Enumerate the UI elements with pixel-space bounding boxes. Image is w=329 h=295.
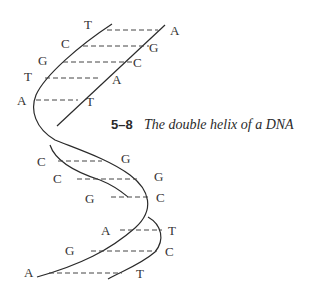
base-label: G xyxy=(149,40,158,55)
base-label: T xyxy=(84,17,92,32)
base-label: C xyxy=(133,55,142,70)
base-label: T xyxy=(136,266,144,281)
base-label: G xyxy=(38,53,47,68)
base-label: A xyxy=(17,93,27,108)
base-label: G xyxy=(121,151,130,166)
base-label: A xyxy=(170,23,180,38)
base-label: C xyxy=(165,244,174,259)
base-label: T xyxy=(86,94,94,109)
figure-caption: 5–8 The double helix of a DNA xyxy=(111,117,294,133)
base-label: G xyxy=(65,243,74,258)
base-label: T xyxy=(24,69,32,84)
dna-helix-diagram: T C G T A A G C A T C C G G G C A G A T … xyxy=(0,0,329,295)
figure-title: The double helix of a DNA xyxy=(144,117,294,132)
base-label: C xyxy=(53,171,62,186)
figure-number: 5–8 xyxy=(111,117,133,132)
base-label: T xyxy=(168,223,176,238)
strand-2-bottom xyxy=(108,217,161,279)
base-label: A xyxy=(24,265,34,280)
base-label: G xyxy=(85,191,94,206)
base-label: G xyxy=(154,169,163,184)
base-label: C xyxy=(37,154,46,169)
base-label: A xyxy=(112,72,122,87)
base-label: C xyxy=(156,190,165,205)
base-label: C xyxy=(61,36,70,51)
base-label: A xyxy=(101,223,111,238)
